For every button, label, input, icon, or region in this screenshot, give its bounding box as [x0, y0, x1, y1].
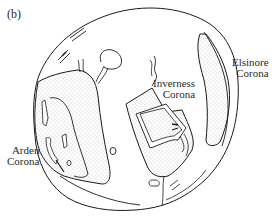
miranda-corona-diagram: (b) Elsinore Corona Inverness Corona Ard…: [0, 0, 276, 217]
panel-label: (b): [7, 9, 21, 20]
disc-map: [0, 0, 276, 217]
label-elsinore-corona: Elsinore Corona: [232, 57, 269, 79]
small-crater: [110, 148, 116, 155]
label-inverness-line2: Corona: [153, 89, 195, 100]
label-arden-line2: Corona: [7, 156, 39, 167]
label-inverness-corona: Inverness Corona: [153, 78, 195, 100]
label-arden-corona: Arden Corona: [7, 145, 39, 167]
label-elsinore-line2: Corona: [232, 68, 269, 79]
